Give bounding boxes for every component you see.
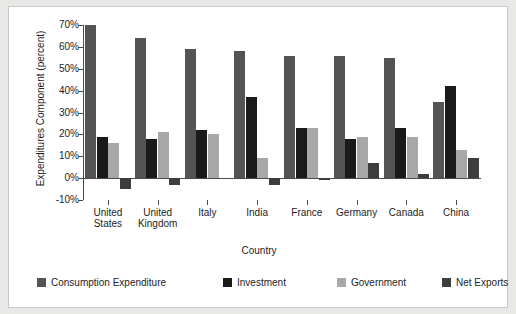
y-axis-tick — [78, 91, 83, 92]
y-axis-tick — [78, 113, 83, 114]
legend-label: Government — [351, 277, 406, 288]
bar — [185, 49, 196, 178]
bar — [284, 56, 295, 179]
bar — [269, 178, 280, 185]
y-axis-tick — [78, 156, 83, 157]
y-axis-tick-label: 20% — [45, 129, 79, 139]
x-axis-tick — [406, 200, 407, 205]
x-axis-tick — [456, 200, 457, 205]
y-axis-tick-label: 30% — [45, 108, 79, 118]
bar — [257, 158, 268, 178]
bar — [196, 130, 207, 178]
y-axis-tick — [78, 47, 83, 48]
bar — [234, 51, 245, 178]
bar — [345, 139, 356, 178]
y-axis-tick-label: -10% — [45, 195, 79, 205]
chart-legend: Consumption ExpenditureInvestmentGovernm… — [37, 275, 487, 291]
x-axis-label-line: Kingdom — [123, 218, 193, 229]
legend-item[interactable]: Government — [337, 275, 406, 289]
legend-swatch-icon — [337, 278, 346, 287]
bar — [108, 143, 119, 178]
y-axis-tick — [78, 134, 83, 135]
x-axis-zero-line — [83, 178, 481, 179]
legend-label: Consumption Expenditure — [51, 277, 166, 288]
bar — [334, 56, 345, 179]
legend-swatch-icon — [37, 278, 46, 287]
bar — [97, 137, 108, 179]
y-axis-tick-label: 70% — [45, 20, 79, 30]
y-axis-tick — [78, 25, 83, 26]
y-axis-tick-label: 60% — [45, 42, 79, 52]
plot-area — [83, 25, 481, 200]
x-axis-tick — [307, 200, 308, 205]
y-axis-line — [83, 25, 84, 200]
bar — [146, 139, 157, 178]
y-axis-tick — [78, 69, 83, 70]
x-axis-tick — [257, 200, 258, 205]
y-axis-tick-labels: 70%60%50%40%30%20%10%0%-10% — [39, 25, 79, 200]
y-axis-tick-label: 40% — [45, 86, 79, 96]
bar — [456, 150, 467, 178]
bar — [395, 128, 406, 178]
x-axis-tick — [158, 200, 159, 205]
bar — [418, 174, 429, 178]
bar — [158, 132, 169, 178]
bar — [296, 128, 307, 178]
x-axis-label-line: China — [421, 207, 491, 218]
bar — [468, 158, 479, 178]
legend-label: Investment — [237, 277, 286, 288]
bar — [307, 128, 318, 178]
y-axis-tick-label: 0% — [45, 173, 79, 183]
bar — [368, 163, 379, 178]
chart-card: Expenditures Component (percent) 70%60%5… — [8, 6, 508, 308]
x-axis-tick — [357, 200, 358, 205]
x-axis-category-label: China — [421, 207, 491, 218]
bar — [85, 25, 96, 178]
legend-swatch-icon — [442, 278, 451, 287]
bar — [246, 97, 257, 178]
bar — [384, 58, 395, 178]
legend-item[interactable]: Investment — [223, 275, 286, 289]
bar — [445, 86, 456, 178]
y-axis-tick-label: 10% — [45, 151, 79, 161]
x-axis-tick — [207, 200, 208, 205]
legend-label: Net Exports — [456, 277, 508, 288]
bar — [135, 38, 146, 178]
bar — [120, 178, 131, 189]
legend-item[interactable]: Consumption Expenditure — [37, 275, 166, 289]
bar — [319, 178, 330, 180]
chart-screenshot: Expenditures Component (percent) 70%60%5… — [0, 0, 516, 314]
x-axis-tick — [108, 200, 109, 205]
bar — [208, 134, 219, 178]
bar — [169, 178, 180, 185]
x-axis-title: Country — [9, 245, 509, 256]
y-axis-tick — [78, 178, 83, 179]
legend-item[interactable]: Net Exports — [442, 275, 508, 289]
bar — [433, 102, 444, 179]
y-axis-tick-label: 50% — [45, 64, 79, 74]
bar — [407, 137, 418, 179]
legend-swatch-icon — [223, 278, 232, 287]
y-axis-tick — [78, 200, 83, 201]
bar — [357, 137, 368, 179]
